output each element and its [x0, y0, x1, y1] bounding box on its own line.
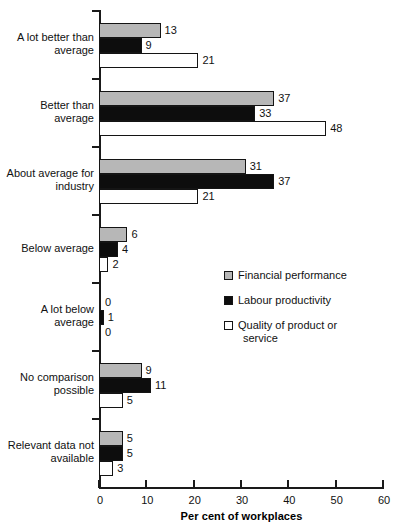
category-label: A lot better thanaverage: [2, 31, 94, 57]
bar: [99, 227, 127, 242]
bar-value-label: 13: [161, 23, 177, 38]
bar-value-label: 5: [123, 431, 133, 446]
category-label-line: A lot better than: [2, 31, 94, 44]
bar: [99, 23, 161, 38]
bar-value-label: 31: [246, 159, 262, 174]
black-square-icon: [224, 296, 233, 305]
bar-value-label: 37: [274, 174, 290, 189]
category-label: Below average: [2, 242, 94, 255]
bar: [99, 159, 246, 174]
bar-value-label: 9: [142, 363, 152, 378]
bar: [99, 189, 198, 204]
bar-value-label: 0: [101, 295, 111, 310]
bar-value-label: 5: [123, 446, 133, 461]
legend-item-labour-productivity: Labour productivity: [224, 294, 392, 307]
category-label-line: available: [2, 452, 94, 465]
bar: [99, 257, 108, 272]
category-label-line: No comparison: [2, 371, 94, 384]
category-axis-tick: [92, 418, 101, 420]
x-axis-tick-label: 60: [364, 494, 395, 507]
category-label: No comparisonpossible: [2, 371, 94, 397]
x-axis-tick-label: 10: [127, 494, 167, 507]
bar: [99, 242, 118, 257]
bar: [99, 174, 274, 189]
category-label-line: average: [2, 44, 94, 57]
category-label: Relevant data notavailable: [2, 439, 94, 465]
bar: [99, 461, 113, 476]
bar-value-label: 21: [198, 189, 214, 204]
category-axis-tick-top: [92, 10, 101, 12]
legend-label: Labour productivity: [238, 294, 331, 306]
white-square-icon: [224, 321, 233, 330]
category-label-line: About average for: [2, 167, 94, 180]
category-axis-tick: [92, 350, 101, 352]
bar-value-label: 37: [274, 91, 290, 106]
bar-value-label: 4: [118, 242, 128, 257]
bar-value-label: 5: [123, 393, 133, 408]
category-label: About average forindustry: [2, 167, 94, 193]
legend-label: Financial performance: [238, 269, 347, 281]
category-label-line: average: [2, 112, 94, 125]
category-label-line: Relevant data not: [2, 439, 94, 452]
bar-value-label: 2: [108, 257, 118, 272]
category-axis-tick: [92, 146, 101, 148]
bar-value-label: 48: [326, 121, 342, 136]
bar-chart: 0102030405060A lot better thanaverage139…: [0, 0, 395, 528]
bar-value-label: 33: [255, 106, 271, 121]
category-axis-tick: [92, 78, 101, 80]
x-axis-tick-label: 20: [175, 494, 215, 507]
legend-item-quality-of-product-or-service: Quality of product or service: [224, 319, 392, 345]
x-axis-tick-label: 40: [269, 494, 309, 507]
x-axis-tick-label: 30: [222, 494, 262, 507]
category-label-line: industry: [2, 180, 94, 193]
legend-label: Quality of product or: [238, 319, 337, 331]
bar-value-label: 11: [151, 378, 166, 393]
bar: [99, 53, 198, 68]
bar-value-label: 0: [101, 325, 111, 340]
bar: [99, 446, 123, 461]
x-axis-tick: [193, 480, 195, 488]
x-axis-tick: [98, 480, 100, 488]
bar: [99, 378, 151, 393]
bar: [99, 363, 142, 378]
x-axis-tick: [145, 480, 147, 488]
bar: [99, 121, 326, 136]
category-label-line: Better than: [2, 99, 94, 112]
bar: [99, 393, 123, 408]
category-label-line: average: [2, 316, 94, 329]
category-label: A lot belowaverage: [2, 303, 94, 329]
bar: [99, 431, 123, 446]
bar-value-label: 1: [104, 310, 114, 325]
chart-legend: Financial performance Labour productivit…: [224, 269, 392, 357]
category-axis-tick: [92, 282, 101, 284]
bar: [99, 38, 142, 53]
legend-item-financial-performance: Financial performance: [224, 269, 392, 282]
x-axis-tick: [382, 480, 384, 488]
category-label: Better thanaverage: [2, 99, 94, 125]
bar-value-label: 6: [127, 227, 137, 242]
x-axis-tick: [335, 480, 337, 488]
gray-square-icon: [224, 271, 233, 280]
bar-value-label: 3: [113, 461, 123, 476]
legend-label-line2: service: [238, 332, 392, 345]
bar-value-label: 9: [142, 38, 152, 53]
x-axis-tick: [240, 480, 242, 488]
category-label-line: possible: [2, 384, 94, 397]
category-axis-tick: [92, 214, 101, 216]
x-axis-title: Per cent of workplaces: [99, 510, 384, 522]
x-axis-tick-label: 0: [80, 494, 120, 507]
x-axis-tick-label: 50: [317, 494, 357, 507]
bar: [99, 91, 274, 106]
bar: [99, 106, 255, 121]
category-label-line: Below average: [2, 242, 94, 255]
bar-value-label: 21: [198, 53, 214, 68]
x-axis-tick: [287, 480, 289, 488]
category-label-line: A lot below: [2, 303, 94, 316]
